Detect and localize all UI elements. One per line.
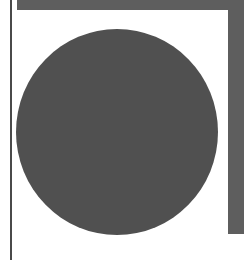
circle-shape xyxy=(16,29,218,235)
top-bar xyxy=(17,0,244,10)
right-bar xyxy=(228,0,244,234)
left-border-line xyxy=(10,0,12,260)
